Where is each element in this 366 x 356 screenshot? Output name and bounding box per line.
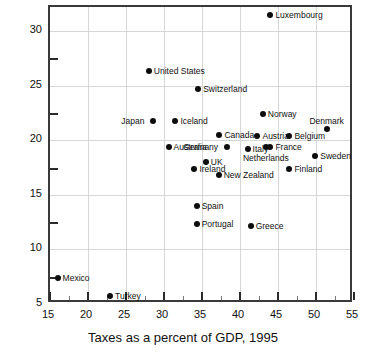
data-point-label: Belgium (294, 132, 325, 141)
gridline-horizontal (50, 249, 350, 250)
y-tick-minor (50, 222, 58, 224)
x-tick-major (125, 292, 127, 300)
data-point-label: France (275, 143, 301, 152)
x-tick-label: 45 (261, 308, 291, 320)
data-point (150, 118, 156, 124)
data-point-label: Austria (262, 132, 288, 141)
data-point (195, 86, 201, 92)
x-tick-label: 55 (337, 308, 366, 320)
data-point-label: United States (154, 67, 205, 76)
x-tick-label: 35 (185, 308, 215, 320)
y-tick-minor (50, 58, 58, 60)
data-point-label: Germany (183, 143, 218, 152)
data-point-label: Norway (268, 110, 297, 119)
gridlines (50, 7, 350, 300)
data-point-label: Switzerland (203, 85, 247, 94)
data-point (224, 144, 230, 150)
gridline-vertical (126, 7, 127, 300)
x-tick-label: 50 (299, 308, 329, 320)
data-point-label: Italy (253, 145, 269, 154)
data-point-label: Ireland (199, 165, 225, 174)
gridline-vertical (88, 7, 89, 300)
x-axis-title: Taxes as a percent of GDP, 1995 (0, 330, 366, 345)
data-point (191, 166, 197, 172)
x-tick-label: 15 (33, 308, 63, 320)
x-tick-major (353, 292, 355, 300)
data-point (263, 144, 269, 150)
data-points-layer: LuxembourgUnited StatesSwitzerlandJapanI… (50, 7, 350, 300)
x-tick-minor (335, 296, 336, 300)
plot-area: LuxembourgUnited StatesSwitzerlandJapanI… (48, 5, 352, 302)
y-tick-label: 30 (16, 23, 42, 35)
x-tick-label: 30 (147, 308, 177, 320)
data-point (107, 293, 113, 299)
x-tick-major (277, 292, 279, 300)
x-tick-major (49, 292, 51, 300)
tick-marks (50, 7, 350, 300)
gridline-horizontal (50, 140, 350, 141)
data-point-label: Greece (256, 222, 284, 231)
x-tick-major (239, 292, 241, 300)
data-point-label: Spain (202, 202, 224, 211)
data-point (166, 144, 172, 150)
data-point-label: Turkey (115, 292, 141, 301)
data-point-label: UK (211, 158, 223, 167)
data-point (254, 133, 260, 139)
data-point (248, 223, 254, 229)
data-point (146, 68, 152, 74)
data-point (216, 172, 222, 178)
data-point-label: Denmark (309, 117, 343, 126)
data-point (286, 133, 292, 139)
data-point-label: New Zealand (224, 171, 274, 180)
data-point (286, 166, 292, 172)
data-point (245, 146, 251, 152)
gridline-horizontal (50, 31, 350, 32)
x-tick-minor (183, 296, 184, 300)
x-tick-label: 25 (109, 308, 139, 320)
data-point-label: Japan (121, 117, 144, 126)
data-point (312, 153, 318, 159)
x-tick-minor (69, 296, 70, 300)
gridline-vertical (240, 7, 241, 300)
y-tick-label: 5 (16, 296, 42, 308)
x-tick-major (163, 292, 165, 300)
x-tick-minor (259, 296, 260, 300)
data-point (324, 126, 330, 132)
data-point (194, 203, 200, 209)
y-tick-minor (50, 168, 58, 170)
scatter-chart-figure: LuxembourgUnited StatesSwitzerlandJapanI… (0, 0, 366, 356)
y-tick-label: 25 (16, 78, 42, 90)
data-point-label: Portugal (202, 220, 234, 229)
data-point-label: Canada (224, 131, 254, 140)
data-point (172, 118, 178, 124)
data-point-label: Mexico (63, 274, 90, 283)
y-tick-label: 20 (16, 132, 42, 144)
gridline-horizontal (50, 195, 350, 196)
data-point (216, 132, 222, 138)
y-tick-label: 15 (16, 187, 42, 199)
data-point (260, 111, 266, 117)
data-point-label: Luxembourg (275, 11, 322, 20)
y-tick-minor (50, 113, 58, 115)
x-tick-label: 20 (71, 308, 101, 320)
x-tick-label: 40 (223, 308, 253, 320)
x-tick-minor (145, 296, 146, 300)
data-point (203, 159, 209, 165)
x-tick-minor (221, 296, 222, 300)
x-tick-minor (297, 296, 298, 300)
gridline-vertical (316, 7, 317, 300)
data-point-label: Finland (294, 165, 322, 174)
data-point (267, 12, 273, 18)
x-tick-major (201, 292, 203, 300)
x-tick-minor (107, 296, 108, 300)
data-point (194, 221, 200, 227)
data-point-label: Sweden (320, 152, 351, 161)
data-point-label: Netherlands (243, 154, 289, 163)
gridline-horizontal (50, 86, 350, 87)
gridline-vertical (164, 7, 165, 300)
data-point-label: Australia (174, 143, 207, 152)
data-point (267, 144, 273, 150)
x-tick-major (315, 292, 317, 300)
y-tick-label: 10 (16, 241, 42, 253)
x-tick-major (87, 292, 89, 300)
